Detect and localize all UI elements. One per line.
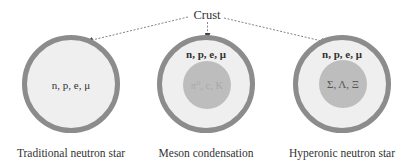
star-traditional: n, p, e, μ Traditional neutron star [17,38,125,160]
crust-label: Crust [193,8,221,22]
star-2-caption: Meson condensation [159,147,254,159]
star-1-particles: n, p, e, μ [52,79,90,91]
star-3-outer-particles: n, p, e, μ [322,48,363,60]
star-1-caption: Traditional neutron star [17,147,125,159]
star-3-caption: Hyperonic neutron star [289,147,395,160]
crust-arrow-right [224,18,326,42]
star-2-outer-particles: n, p, e, μ [186,48,227,60]
star-hyperonic: n, p, e, μ Σ, Λ, Ξ Hyperonic neutron sta… [289,38,395,161]
star-2-core-particles: π⁰, c, K [191,80,224,91]
star-3-core-particles: Σ, Λ, Ξ [327,78,359,90]
crust-arrow-left [88,17,188,41]
neutron-star-diagram: Crust n, p, e, μ Traditional neutron sta… [0,0,413,162]
star-meson-condensation: n, p, e, μ π⁰, c, K Meson condensation [159,38,254,160]
